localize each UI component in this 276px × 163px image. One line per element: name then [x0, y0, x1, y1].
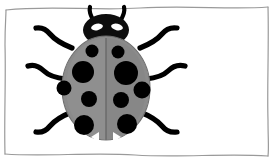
spot-lower-right	[117, 114, 137, 134]
spot-center-right	[113, 92, 129, 108]
spot-lower-left	[74, 115, 94, 135]
spot-mid-left-large	[72, 61, 94, 83]
spot-center-left	[81, 91, 97, 107]
spot-mid-right-large	[114, 61, 138, 85]
ladybug-illustration	[0, 0, 276, 163]
image-canvas	[0, 0, 276, 163]
spot-outer-left	[57, 81, 72, 96]
border-right	[268, 7, 269, 156]
spot-outer-right	[134, 82, 151, 99]
spot-upper-right-small	[112, 46, 125, 59]
spot-upper-left-small	[86, 45, 99, 58]
